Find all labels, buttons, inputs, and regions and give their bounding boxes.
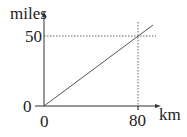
x-tick-80-label: 80 xyxy=(129,112,146,129)
y-axis-label: miles xyxy=(10,5,47,22)
data-line xyxy=(44,25,153,106)
y-tick-50-label: 50 xyxy=(25,28,42,45)
x-axis-label: km xyxy=(159,106,181,123)
y-tick-0-label: 0 xyxy=(23,98,32,115)
x-tick-0-label: 0 xyxy=(40,113,49,130)
